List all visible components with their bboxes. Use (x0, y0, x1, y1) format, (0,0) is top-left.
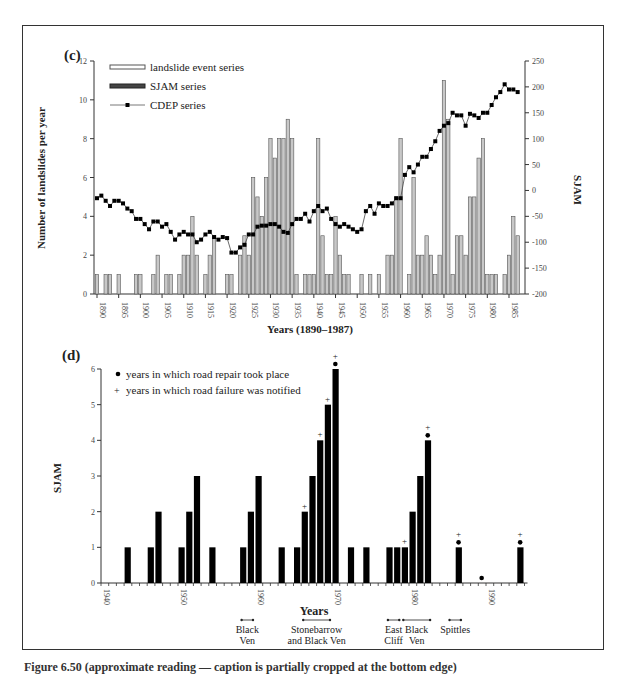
cdep-marker (516, 90, 520, 94)
cdep-marker (390, 201, 394, 205)
cdep-marker (143, 222, 147, 226)
cdep-marker (420, 155, 424, 159)
x-tick-label: 1970 (445, 302, 454, 318)
x-tick-label: 1970 (333, 589, 342, 605)
sjam-bar (425, 440, 431, 583)
cdep-marker (347, 225, 351, 229)
y-tick-label: 0 (83, 290, 87, 299)
landslide-bar (321, 236, 324, 294)
legend-plus-icon: + (114, 385, 120, 396)
cdep-marker (294, 217, 298, 221)
landslide-bar (412, 178, 415, 295)
cdep-marker (164, 222, 168, 226)
figure-canvas: (c)024681012-200-150-100-500501001502002… (0, 0, 621, 680)
cdep-marker (229, 251, 233, 255)
cdep-marker (108, 204, 112, 208)
cdep-marker (169, 230, 173, 234)
landslide-bar (269, 139, 272, 294)
cdep-marker (216, 238, 220, 242)
cdep-marker (151, 220, 155, 224)
landslide-bar (460, 236, 463, 294)
landslide-bar (416, 255, 419, 294)
cdep-marker (95, 196, 99, 200)
y-axis-label: SJAM (51, 462, 63, 493)
landslide-bar (317, 139, 320, 294)
legend-label: CDEP series (150, 99, 206, 111)
cdep-marker (199, 238, 203, 242)
cdep-marker (490, 103, 494, 107)
cdep-marker (433, 139, 437, 143)
sjam-bar (325, 405, 331, 583)
cdep-marker (160, 225, 164, 229)
landslide-bar (473, 197, 476, 294)
y-tick-label: 4 (83, 212, 87, 221)
x-tick-label: 1895 (120, 302, 129, 318)
cdep-marker (451, 111, 455, 115)
landslide-bar (208, 255, 211, 294)
cdep-marker (138, 217, 142, 221)
cdep-marker (290, 222, 294, 226)
cdep-marker (234, 251, 238, 255)
site-label: East (385, 624, 402, 635)
landslide-bar (212, 236, 215, 294)
landslide-bar (286, 119, 289, 294)
road-repair-marker (518, 540, 523, 545)
cdep-marker (498, 90, 502, 94)
landslide-bar (486, 275, 489, 294)
y-tick-label: 1 (91, 543, 95, 552)
cdep-marker (459, 113, 463, 117)
cdep-marker (438, 129, 442, 133)
landslide-bar (343, 275, 346, 294)
site-label: Stonebarrow (291, 624, 343, 635)
site-annotation: BlackVen (236, 619, 259, 646)
x-axis-label: Years (300, 604, 329, 618)
landslide-bar (468, 197, 471, 294)
cdep-marker (407, 165, 411, 169)
sjam-bar (348, 547, 354, 583)
sjam-bar (148, 547, 154, 583)
landslide-bar (429, 255, 432, 294)
road-failure-marker: + (518, 529, 523, 539)
landslide-bar (369, 275, 372, 294)
cdep-marker (442, 124, 446, 128)
y-tick-label: 5 (91, 401, 95, 410)
landslide-bar (477, 158, 480, 294)
y-tick-label: 0 (91, 579, 95, 588)
figure-caption: Figure 6.50 (approximate reading — capti… (24, 660, 614, 675)
cdep-marker (247, 232, 251, 236)
landslide-bar (512, 216, 515, 294)
cdep-marker (316, 204, 320, 208)
landslide-bar (438, 255, 441, 294)
y2-tick-label: 150 (532, 109, 544, 118)
landslide-bar (108, 275, 111, 294)
x-tick-label: 1930 (271, 302, 280, 318)
sjam-bar (386, 547, 392, 583)
legend-dot-icon (116, 372, 121, 377)
x-tick-label: 1950 (358, 302, 367, 318)
landslide-bar (186, 255, 189, 294)
sjam-bar (317, 440, 323, 583)
road-failure-marker: + (325, 394, 330, 404)
sjam-bar (179, 547, 185, 583)
y-tick-label: 10 (79, 96, 87, 105)
road-failure-marker: + (402, 536, 407, 546)
landslide-bar (139, 275, 142, 294)
x-tick-label: 1900 (141, 302, 150, 318)
cdep-marker (112, 199, 116, 203)
cdep-marker (464, 124, 468, 128)
landslide-bar (516, 236, 519, 294)
sjam-bar (410, 512, 416, 583)
cdep-marker (394, 196, 398, 200)
landslide-bar (230, 275, 233, 294)
cdep-marker (412, 170, 416, 174)
legend-label: years in which road repair took place (126, 368, 289, 380)
site-annotation: EastCliff (384, 619, 403, 646)
cdep-marker (221, 235, 225, 239)
cdep-marker (494, 95, 498, 99)
landslide-bar (182, 255, 185, 294)
cdep-marker (373, 212, 377, 216)
landslide-bar (308, 275, 311, 294)
y-axis-label: Number of landslides per year (35, 107, 47, 249)
site-label: Black (236, 624, 259, 635)
x-axis-label: Years (1890–1987) (267, 323, 353, 336)
